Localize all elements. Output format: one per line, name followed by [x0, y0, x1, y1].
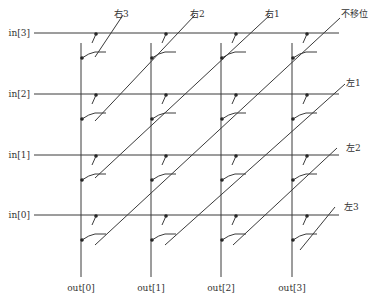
tap-stub: [92, 34, 96, 43]
input-label: in[2]: [9, 89, 30, 99]
switch-cell: [291, 214, 317, 242]
switch-cell: [80, 93, 106, 121]
tap-stub: [232, 216, 236, 225]
input-label: in[0]: [9, 210, 30, 220]
switch-cell: [80, 214, 106, 242]
output-line-out[0]: out[0]: [67, 43, 95, 293]
shift-lines: 右3右2右1不移位左1左2左3: [95, 8, 368, 250]
tap-stub: [92, 156, 96, 165]
shift-label: 不移位: [341, 8, 368, 19]
tap-stub: [92, 95, 96, 104]
switch-contact: [222, 174, 246, 180]
tap-stub: [162, 156, 166, 165]
barrel-shifter-diagram: in[3]in[2]in[1]in[0] out[0]out[1]out[2]o…: [0, 0, 370, 306]
output-lines: out[0]out[1]out[2]out[3]: [67, 43, 306, 293]
switch-contact: [82, 234, 106, 240]
switch-cell: [150, 32, 176, 60]
shift-control-wire: [95, 15, 195, 121]
switch-contact: [152, 174, 176, 180]
shift-label: 左1: [346, 77, 361, 88]
switch-cell: [220, 214, 246, 242]
tap-stub: [92, 216, 96, 225]
output-label: out[1]: [137, 283, 165, 293]
shift-line: 右2: [95, 8, 205, 121]
switch-contact: [82, 52, 106, 58]
output-label: out[3]: [278, 283, 306, 293]
tap-stub: [303, 156, 307, 165]
output-label: out[0]: [67, 283, 95, 293]
switch-contact: [222, 234, 246, 240]
switch-contact: [293, 52, 317, 58]
shift-control-wire: [95, 18, 340, 245]
tap-stub: [162, 34, 166, 43]
switch-cell: [150, 214, 176, 242]
output-line-out[1]: out[1]: [137, 43, 165, 293]
shift-control-wire: [300, 207, 335, 250]
shift-label: 右1: [265, 8, 280, 19]
output-label: out[2]: [207, 283, 235, 293]
tap-stub: [232, 95, 236, 104]
tap-stub: [303, 216, 307, 225]
switch-contact: [293, 113, 317, 119]
switch-cell: [291, 93, 317, 121]
switch-cell: [291, 32, 317, 60]
input-label: in[3]: [9, 28, 30, 38]
tap-stub: [303, 95, 307, 104]
switch-cell: [220, 154, 246, 182]
switch-cell: [150, 154, 176, 182]
tap-stub: [162, 216, 166, 225]
shift-control-wire: [233, 148, 337, 245]
shift-label: 左2: [346, 142, 361, 153]
output-line-out[3]: out[3]: [278, 43, 306, 293]
switch-cell: [220, 32, 246, 60]
input-label: in[1]: [9, 150, 30, 160]
switch-contact: [152, 234, 176, 240]
switch-contact: [222, 52, 246, 58]
input-line-in[1]: in[1]: [9, 150, 339, 160]
shift-line: 左2: [233, 142, 361, 245]
shift-label: 左3: [344, 201, 359, 212]
switch-contact: [293, 174, 317, 180]
shift-control-wire: [165, 84, 345, 245]
switch-contact: [82, 113, 106, 119]
switch-contact: [82, 174, 106, 180]
shift-line: 不移位: [95, 8, 368, 245]
switch-cells: [80, 32, 317, 242]
input-lines: in[3]in[2]in[1]in[0]: [9, 28, 339, 220]
shift-control-wire: [95, 15, 270, 178]
shift-label: 右3: [114, 8, 129, 19]
switch-contact: [293, 234, 317, 240]
shift-line: 左3: [300, 201, 359, 250]
tap-stub: [232, 156, 236, 165]
shift-label: 右2: [190, 8, 205, 19]
switch-cell: [80, 154, 106, 182]
switch-cell: [150, 93, 176, 121]
shift-line: 左1: [165, 77, 361, 245]
tap-stub: [162, 95, 166, 104]
input-line-in[0]: in[0]: [9, 210, 339, 220]
input-line-in[2]: in[2]: [9, 89, 339, 99]
switch-cell: [291, 154, 317, 182]
tap-stub: [303, 34, 307, 43]
input-line-in[3]: in[3]: [9, 28, 339, 38]
output-line-out[2]: out[2]: [207, 43, 235, 293]
tap-stub: [232, 34, 236, 43]
shift-control-wire: [95, 15, 123, 57]
